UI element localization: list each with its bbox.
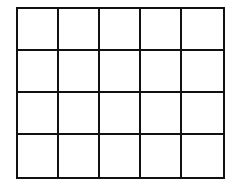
grid-cell-r4-c4	[141, 135, 182, 177]
grid-cell-r3-c1	[18, 93, 59, 135]
grid-cell-r2-c2	[59, 51, 100, 93]
grid-cell-r4-c1	[18, 135, 59, 177]
grid-cell-r2-c5	[182, 51, 223, 93]
grid-cell-r2-c3	[100, 51, 141, 93]
grid-table	[16, 7, 225, 179]
grid-cell-r1-c2	[59, 9, 100, 51]
grid-cell-r2-c1	[18, 51, 59, 93]
grid-cell-r3-c5	[182, 93, 223, 135]
grid-cell-r1-c5	[182, 9, 223, 51]
canvas	[0, 0, 233, 187]
grid-cell-r4-c5	[182, 135, 223, 177]
grid-cell-r3-c3	[100, 93, 141, 135]
grid-cell-r1-c1	[18, 9, 59, 51]
grid-cell-r4-c3	[100, 135, 141, 177]
grid-cell-r3-c2	[59, 93, 100, 135]
grid-cell-r1-c3	[100, 9, 141, 51]
grid-cell-r3-c4	[141, 93, 182, 135]
grid-cell-r1-c4	[141, 9, 182, 51]
grid-cell-r4-c2	[59, 135, 100, 177]
grid-cell-r2-c4	[141, 51, 182, 93]
